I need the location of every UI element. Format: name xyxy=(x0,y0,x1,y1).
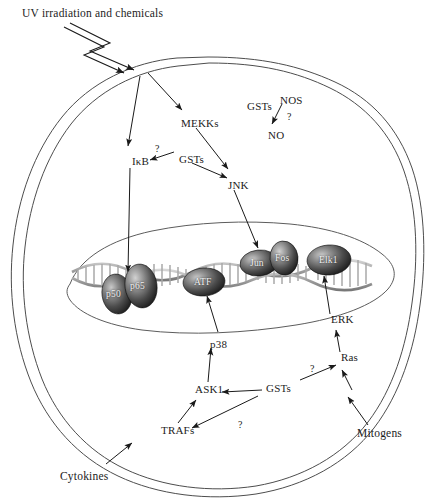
protein-label-p65: p65 xyxy=(130,281,145,291)
node-label-mekks: MEKKs xyxy=(181,118,219,129)
protein-label-jun: Jun xyxy=(250,258,264,268)
node-label-ras: Ras xyxy=(341,352,358,363)
stimulus-label-cytokines: Cytokines xyxy=(60,471,108,483)
node-label-p38: p38 xyxy=(210,339,227,350)
node-label-nos: NOS xyxy=(280,95,303,106)
question-mark-ikb: ? xyxy=(155,144,160,154)
node-label-ask1: ASK1 xyxy=(195,384,223,395)
node-label-gsts-nos: GSTs xyxy=(247,101,272,112)
node-label-gsts-lower: GSTs xyxy=(266,383,291,394)
lightning-bolt-icon xyxy=(64,23,134,73)
diagram-canvas: UV irradiation and chemicals MEKKs IκB G… xyxy=(0,0,430,502)
protein-label-fos: Fos xyxy=(275,253,289,263)
node-label-gsts-upper: GSTs xyxy=(179,154,204,165)
protein-label-atf: ATF xyxy=(194,277,212,287)
nucleus-proteins xyxy=(99,240,352,316)
node-label-erk: ERK xyxy=(331,314,354,325)
protein-label-p50: p50 xyxy=(106,289,121,299)
node-label-ikb: IκB xyxy=(132,156,149,167)
title-uv-irradiation: UV irradiation and chemicals xyxy=(22,8,163,20)
node-label-jnk: JNK xyxy=(228,180,249,191)
node-label-no: NO xyxy=(268,130,284,141)
protein-label-elk1: Elk1 xyxy=(319,255,338,265)
node-label-trafs: TRAFs xyxy=(161,425,194,436)
question-mark-trafs: ? xyxy=(238,420,243,430)
question-mark-ras: ? xyxy=(310,364,315,374)
stimulus-label-mitogens: Mitogens xyxy=(357,428,402,440)
question-mark-nos: ? xyxy=(287,112,292,122)
